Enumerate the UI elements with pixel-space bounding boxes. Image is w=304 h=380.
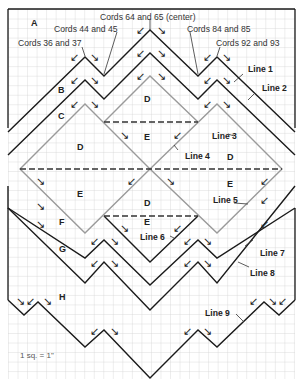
svg-text:↙: ↙ (90, 235, 99, 247)
cord-label-84-85: Cords 84 and 85 (187, 24, 251, 34)
line-label-3: Line 3 (212, 131, 237, 141)
svg-text:↙: ↙ (90, 325, 99, 337)
svg-text:↙: ↙ (70, 98, 79, 110)
line-label-1: Line 1 (248, 64, 273, 74)
svg-text:↘: ↘ (90, 51, 99, 63)
section-c: C (58, 111, 65, 121)
svg-text:↘: ↘ (110, 325, 119, 337)
line-label-8: Line 8 (250, 268, 275, 278)
section-b: B (58, 85, 65, 95)
section-d-lower: D (144, 198, 151, 208)
line-label-2: Line 2 (262, 83, 287, 93)
svg-text:↘: ↘ (16, 295, 25, 307)
section-d-right: D (227, 152, 234, 162)
svg-text:↘: ↘ (120, 222, 129, 234)
cord-label-64-65: Cords 64 and 65 (center) (100, 12, 196, 22)
svg-text:↙: ↙ (136, 47, 145, 59)
svg-text:↙: ↙ (183, 235, 192, 247)
section-f: F (59, 217, 65, 227)
svg-text:↙: ↙ (278, 295, 287, 307)
svg-text:↘: ↘ (222, 98, 231, 110)
svg-text:↙: ↙ (70, 51, 79, 63)
svg-text:↙: ↙ (26, 295, 35, 307)
line-label-6: Line 6 (140, 232, 165, 242)
section-h: H (59, 292, 66, 302)
svg-text:↘: ↘ (36, 200, 45, 212)
svg-text:↘: ↘ (43, 295, 52, 307)
svg-text:↘: ↘ (203, 235, 212, 247)
svg-text:↘: ↘ (90, 98, 99, 110)
svg-text:↙: ↙ (127, 175, 136, 187)
svg-text:↘: ↘ (157, 47, 166, 59)
line-label-9: Line 9 (205, 308, 230, 318)
line-label-7: Line 7 (260, 248, 285, 258)
svg-text:↘: ↘ (110, 257, 119, 269)
section-e-left: E (77, 189, 83, 199)
svg-text:↙: ↙ (203, 51, 212, 63)
macrame-diagram: ↙↘ ↙↘ ↙↘ ↙↘ ↙↘ ↙↘ ↙↘ ↙↘ ↙↘ ↘↙ ↘↙ ↘↙ ↘↙ ↘… (0, 0, 304, 380)
svg-text:↘: ↘ (120, 129, 129, 141)
svg-text:↘: ↘ (90, 74, 99, 86)
cord-label-92-93: Cords 92 and 93 (216, 38, 280, 48)
section-d-left: D (77, 142, 84, 152)
svg-text:↙: ↙ (173, 129, 182, 141)
cord-label-44-45: Cords 44 and 45 (54, 24, 118, 34)
section-e-lower: E (144, 217, 150, 227)
svg-text:↘: ↘ (36, 175, 45, 187)
line-label-4: Line 4 (185, 151, 210, 161)
svg-text:↙: ↙ (203, 74, 212, 86)
section-e-top: E (144, 132, 150, 142)
svg-text:↘: ↘ (36, 218, 45, 230)
svg-text:↙: ↙ (260, 194, 269, 206)
svg-text:↙: ↙ (136, 70, 145, 82)
scale-label: 1 sq. = 1" (20, 351, 54, 360)
svg-text:↘: ↘ (166, 175, 175, 187)
section-a: A (31, 18, 38, 28)
svg-text:↘: ↘ (203, 325, 212, 337)
svg-text:↙: ↙ (249, 295, 258, 307)
svg-text:↙: ↙ (90, 257, 99, 269)
svg-text:↘: ↘ (157, 70, 166, 82)
svg-text:↘: ↘ (222, 51, 231, 63)
section-g: G (59, 244, 66, 254)
svg-text:↙: ↙ (260, 218, 269, 230)
line-label-5: Line 5 (213, 195, 238, 205)
svg-text:↙: ↙ (183, 325, 192, 337)
svg-text:↘: ↘ (222, 74, 231, 86)
svg-text:↘: ↘ (157, 24, 166, 36)
diagram-canvas: ↙↘ ↙↘ ↙↘ ↙↘ ↙↘ ↙↘ ↙↘ ↙↘ ↙↘ ↘↙ ↘↙ ↘↙ ↘↙ ↘… (0, 0, 304, 380)
svg-text:↙: ↙ (183, 257, 192, 269)
svg-text:↘: ↘ (203, 257, 212, 269)
svg-text:↘: ↘ (110, 235, 119, 247)
svg-text:↙: ↙ (136, 24, 145, 36)
svg-text:↙: ↙ (203, 98, 212, 110)
section-e-right: E (227, 179, 233, 189)
svg-text:↙: ↙ (70, 74, 79, 86)
svg-text:↙: ↙ (173, 222, 182, 234)
section-d-top: D (144, 94, 151, 104)
svg-text:↘: ↘ (268, 295, 277, 307)
svg-text:↙: ↙ (260, 175, 269, 187)
cord-label-36-37: Cords 36 and 37 (18, 38, 82, 48)
